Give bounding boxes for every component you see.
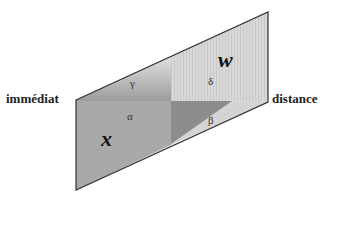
label-beta: β [208,114,214,126]
label-alpha: α [127,110,133,122]
label-distance: distance [272,91,318,107]
label-w: w [218,47,233,73]
label-gamma: γ [130,77,135,89]
label-x: x [101,126,112,152]
quadrant-x [76,101,171,190]
label-immediat: immédiat [6,91,59,107]
label-delta: δ [208,75,213,87]
